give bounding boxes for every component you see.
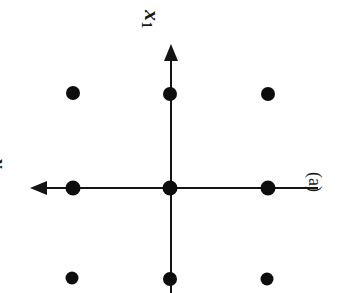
figure-panel: x1 x2 (a) <box>0 0 348 293</box>
vertical-axis-line <box>170 48 172 293</box>
point-middle-left <box>66 181 81 196</box>
axis-label-x2: x2 <box>0 158 10 176</box>
point-top-center <box>163 87 177 101</box>
left-arrow-icon <box>30 181 47 195</box>
panel-caption-label: (a) <box>306 172 324 192</box>
point-bottom-left <box>66 272 79 285</box>
point-origin <box>163 181 178 196</box>
axis-label-x1-subscript: 1 <box>139 22 154 29</box>
point-bottom-center <box>163 272 177 286</box>
axis-label-x1-base: x <box>140 10 165 21</box>
axis-label-x2-subscript: 2 <box>0 170 1 177</box>
axis-label-x2-base: x <box>0 158 12 169</box>
point-middle-right <box>261 181 276 196</box>
point-bottom-right <box>261 273 274 286</box>
point-top-right <box>261 87 275 101</box>
axis-label-x1: x1 <box>139 10 163 28</box>
up-arrow-icon <box>164 44 178 61</box>
point-top-left <box>66 86 80 100</box>
